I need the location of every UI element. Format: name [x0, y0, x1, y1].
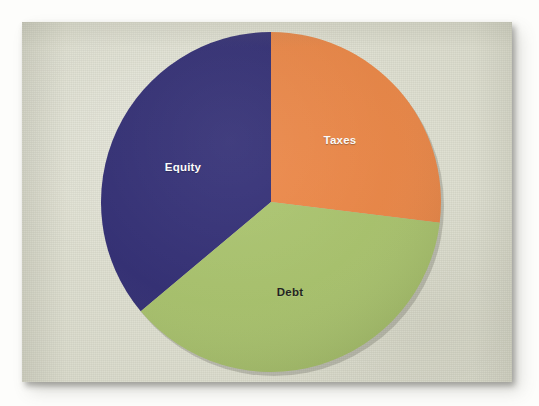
screenshot-root: Equity Taxes Debt [0, 0, 539, 406]
pie-sheen-overlay [101, 32, 441, 372]
pie-chart-svg [22, 22, 512, 382]
photographed-page-card: Equity Taxes Debt [22, 22, 512, 382]
pie-chart: Equity Taxes Debt [22, 22, 512, 382]
